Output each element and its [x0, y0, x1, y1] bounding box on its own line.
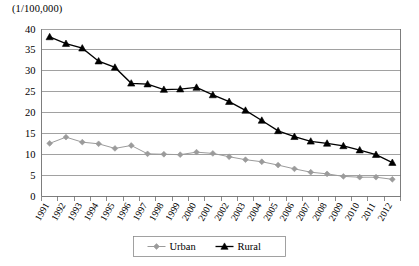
y-axis-tick-label: 15 — [25, 128, 36, 139]
y-axis-tick-label: 35 — [25, 44, 36, 55]
x-axis-tick-label: 1991 — [32, 200, 51, 222]
x-axis-tick-label: 1993 — [65, 200, 84, 222]
data-point-marker — [226, 154, 232, 160]
x-axis-tickmarks — [42, 196, 401, 201]
data-point-marker — [340, 173, 346, 179]
x-axis-tick-label: 2007 — [293, 200, 312, 222]
chart-plot-area: 0510152025303540 19911992199319941995199… — [0, 0, 419, 266]
data-point-marker — [243, 157, 249, 163]
legend-label-urban: Urban — [170, 241, 197, 252]
x-axis-tick-labels: 1991199219931994199519961997199819992000… — [32, 200, 394, 222]
x-axis-tick-label: 2011 — [359, 200, 378, 222]
x-axis-tick-label: 1997 — [130, 200, 149, 222]
x-axis-tick-label: 1996 — [114, 200, 133, 222]
data-point-marker — [324, 171, 330, 177]
data-point-marker — [145, 151, 151, 157]
data-point-marker — [96, 141, 102, 147]
x-axis-tick-label: 2000 — [179, 200, 198, 222]
data-point-marker — [389, 159, 396, 165]
x-axis-tick-label: 2012 — [375, 200, 394, 222]
y-axis-tick-label: 5 — [30, 170, 35, 181]
y-axis-tick-label: 10 — [25, 149, 36, 160]
data-point-marker — [259, 159, 265, 165]
x-axis-tick-label: 2005 — [261, 200, 280, 222]
x-axis-tick-label: 2006 — [277, 200, 296, 222]
y-axis-tick-label: 25 — [25, 86, 36, 97]
series-lines-group — [46, 33, 396, 182]
data-point-marker — [275, 162, 281, 168]
data-point-marker — [389, 176, 395, 182]
data-point-marker — [258, 117, 265, 123]
data-point-marker — [242, 107, 249, 113]
data-point-marker — [193, 84, 200, 90]
data-point-marker — [210, 151, 216, 157]
y-axis-tick-labels: 0510152025303540 — [25, 24, 36, 202]
x-axis-tick-label: 2004 — [244, 200, 263, 222]
data-point-marker — [292, 166, 298, 172]
data-point-marker — [177, 152, 183, 158]
data-point-marker — [275, 127, 282, 133]
legend-label-rural: Rural — [238, 241, 261, 252]
data-point-marker — [161, 151, 167, 157]
data-point-marker — [112, 146, 118, 152]
x-axis-tick-label: 2002 — [212, 200, 231, 222]
data-point-marker — [63, 134, 69, 140]
y-axis-tick-label: 20 — [25, 107, 36, 118]
data-point-marker — [46, 33, 53, 39]
y-axis-tick-label: 0 — [30, 191, 35, 202]
data-point-marker — [128, 143, 134, 149]
data-point-marker — [79, 139, 85, 145]
data-point-marker — [209, 91, 216, 97]
x-axis-tick-label: 1995 — [98, 200, 117, 222]
chart-legend: UrbanRural — [134, 237, 286, 257]
x-axis-tick-label: 1998 — [146, 200, 165, 222]
x-axis-tick-label: 2001 — [195, 200, 214, 222]
y-axis-tick-label: 30 — [25, 65, 36, 76]
x-axis-tick-label: 1994 — [81, 200, 100, 222]
x-axis-tick-label: 2010 — [342, 200, 361, 222]
data-point-marker — [47, 140, 53, 146]
x-axis-tick-label: 2003 — [228, 200, 247, 222]
y-axis-tick-label: 40 — [25, 24, 36, 35]
gridlines-group — [42, 29, 401, 196]
chart-container: (1/100,000) 0510152025303540 19911992199… — [0, 0, 419, 266]
x-axis-tick-label: 2009 — [326, 200, 345, 222]
x-axis-tick-label: 1992 — [49, 200, 68, 222]
data-point-marker — [308, 169, 314, 175]
x-axis-tick-label: 2008 — [310, 200, 329, 222]
x-axis-tick-label: 1999 — [163, 200, 182, 222]
